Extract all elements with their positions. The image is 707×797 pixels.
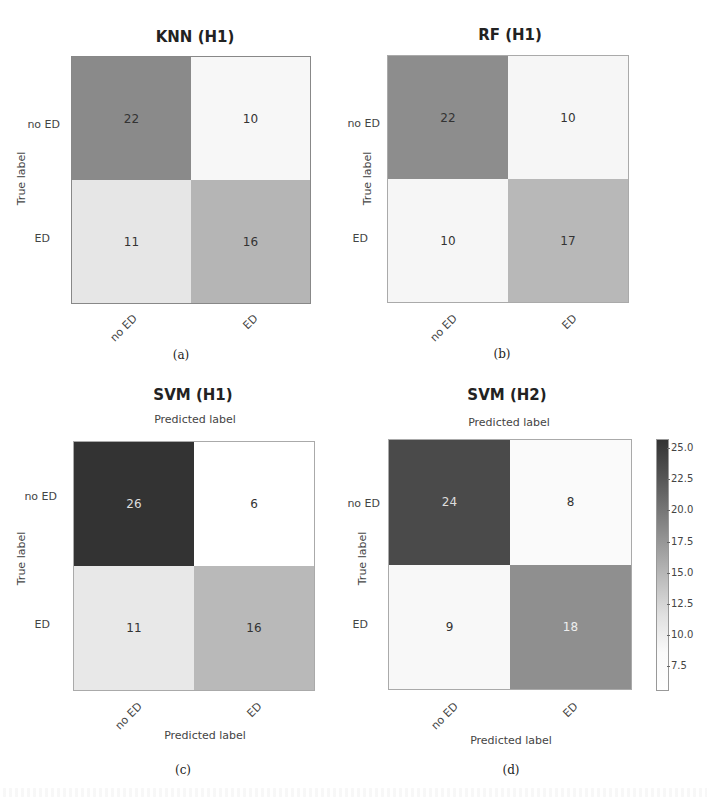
matrix-grid: 22 10 10 17 xyxy=(387,55,629,303)
predicted-label-top: Predicted label xyxy=(444,416,574,429)
colorbar xyxy=(656,439,669,691)
panel-title: SVM (H1) xyxy=(118,386,268,404)
cell-value: 10 xyxy=(560,111,575,125)
y-tick-label: no ED xyxy=(330,497,380,510)
cell-value: 16 xyxy=(246,621,261,635)
cell-value: 11 xyxy=(124,235,139,249)
y-tick-label: ED xyxy=(318,618,368,631)
matrix-cell: 9 xyxy=(389,565,510,690)
cell-value: 22 xyxy=(440,111,455,125)
matrix-cell: 10 xyxy=(388,179,508,302)
y-tick-label: ED xyxy=(318,232,368,245)
matrix-cell: 16 xyxy=(194,566,314,690)
panel-title: RF (H1) xyxy=(435,26,585,44)
cell-value: 10 xyxy=(243,112,258,126)
matrix-cell: 11 xyxy=(74,566,194,690)
cell-value: 8 xyxy=(567,495,575,509)
cell-value: 10 xyxy=(440,234,455,248)
cell-value: 22 xyxy=(124,112,139,126)
x-tick-label: no ED xyxy=(113,700,145,732)
y-tick-label: no ED xyxy=(330,117,380,130)
x-tick-label: no ED xyxy=(108,312,140,344)
cell-value: 18 xyxy=(563,620,578,634)
cell-value: 11 xyxy=(126,621,141,635)
predicted-label-top: Predicted label xyxy=(130,413,260,426)
matrix-cell: 6 xyxy=(194,442,314,566)
matrix-cell: 22 xyxy=(388,56,508,179)
panel-caption: (a) xyxy=(161,348,201,362)
matrix-cell: 8 xyxy=(510,440,631,565)
x-tick-label: no ED xyxy=(429,700,461,732)
y-axis-title: True label xyxy=(15,152,28,205)
x-tick-label: ED xyxy=(245,700,265,720)
colorbar-tick: 12.5 xyxy=(671,598,693,609)
matrix-cell: 22 xyxy=(72,57,191,180)
cell-value: 24 xyxy=(442,495,457,509)
cell-value: 6 xyxy=(250,497,258,511)
x-tick-label: ED xyxy=(560,312,580,332)
matrix-cell: 11 xyxy=(72,180,191,303)
x-tick-label: no ED xyxy=(428,312,460,344)
cropped-caption-text xyxy=(0,788,707,797)
predicted-label-bottom: Predicted label xyxy=(446,734,576,747)
cell-value: 16 xyxy=(243,235,258,249)
x-tick-label: ED xyxy=(561,700,581,720)
panel-caption: (d) xyxy=(491,763,531,777)
matrix-cell: 16 xyxy=(191,180,310,303)
matrix-cell: 24 xyxy=(389,440,510,565)
colorbar-tick: 25.0 xyxy=(671,442,693,453)
y-tick-label: no ED xyxy=(7,490,57,503)
matrix-grid: 22 10 11 16 xyxy=(71,56,311,304)
colorbar-tick: 10.0 xyxy=(671,629,693,640)
colorbar-tick: 17.5 xyxy=(671,536,693,547)
matrix-grid: 24 8 9 18 xyxy=(388,439,632,690)
predicted-label-bottom: Predicted label xyxy=(140,729,270,742)
matrix-grid: 26 6 11 16 xyxy=(73,441,315,691)
cell-value: 17 xyxy=(560,234,575,248)
panel-title: SVM (H2) xyxy=(432,386,582,404)
colorbar-tick: 22.5 xyxy=(671,473,693,484)
matrix-cell: 18 xyxy=(510,565,631,690)
y-tick-label: ED xyxy=(0,232,50,245)
panel-caption: (c) xyxy=(163,763,203,777)
cell-value: 9 xyxy=(446,620,454,634)
cell-value: 26 xyxy=(126,497,141,511)
panel-caption: (b) xyxy=(482,347,522,361)
y-axis-title: True label xyxy=(15,532,28,585)
colorbar-tick: 7.5 xyxy=(671,660,687,671)
x-tick-label: ED xyxy=(241,312,261,332)
colorbar-tick: 20.0 xyxy=(671,504,693,515)
y-tick-label: no ED xyxy=(10,118,60,131)
y-tick-label: ED xyxy=(0,618,50,631)
panel-title: KNN (H1) xyxy=(120,28,270,46)
colorbar-tick: 15.0 xyxy=(671,567,693,578)
y-axis-title: True label xyxy=(356,532,369,585)
matrix-cell: 10 xyxy=(508,56,628,179)
y-axis-title: True label xyxy=(361,152,374,205)
matrix-cell: 26 xyxy=(74,442,194,566)
matrix-cell: 10 xyxy=(191,57,310,180)
matrix-cell: 17 xyxy=(508,179,628,302)
